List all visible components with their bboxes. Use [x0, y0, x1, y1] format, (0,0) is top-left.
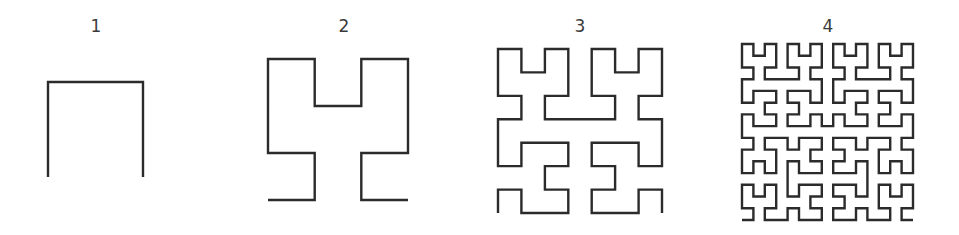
- panel-order-4: 4: [742, 16, 913, 220]
- panel-label: 4: [823, 16, 834, 36]
- panel-order-1: 1: [48, 16, 143, 177]
- hilbert-curve-order-2: [268, 59, 408, 200]
- panel-label: 2: [339, 16, 350, 36]
- hilbert-curve-figure: 1 2 3 4: [0, 0, 959, 235]
- hilbert-curve-order-1: [48, 82, 143, 177]
- hilbert-curve-order-3: [498, 49, 662, 213]
- panel-label: 3: [575, 16, 586, 36]
- hilbert-curve-order-4: [742, 44, 913, 220]
- panel-order-2: 2: [268, 16, 408, 200]
- panel-order-3: 3: [498, 16, 662, 213]
- panel-label: 1: [91, 16, 102, 36]
